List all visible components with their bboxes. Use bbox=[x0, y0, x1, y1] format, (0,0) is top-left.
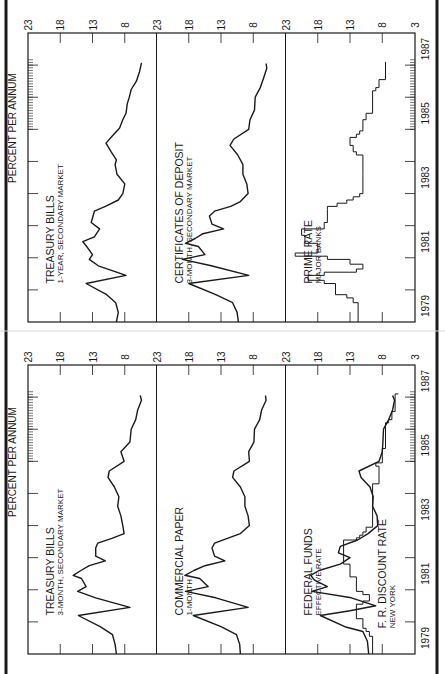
value-tick-label: 8 bbox=[248, 22, 259, 28]
value-tick-label: 23 bbox=[23, 19, 34, 31]
value-tick-label: 8 bbox=[248, 354, 259, 360]
panel-label: CERTIFICATES OF DEPOSIT bbox=[173, 142, 185, 284]
year-label: 1987 bbox=[420, 369, 431, 392]
value-tick-label: 8 bbox=[120, 354, 131, 360]
value-tick-label: 3 bbox=[410, 354, 421, 360]
value-tick-label: 18 bbox=[313, 19, 324, 31]
value-tick-label: 18 bbox=[313, 351, 324, 363]
year-label: 1979 bbox=[420, 294, 431, 317]
value-tick-label: 23 bbox=[152, 19, 163, 31]
unit-label-top: PERCENT PER ANNUM bbox=[7, 73, 18, 183]
value-tick-label: 18 bbox=[184, 19, 195, 31]
year-label: 1985 bbox=[420, 102, 431, 125]
unit-label-bottom: PERCENT PER ANNUM bbox=[7, 407, 18, 517]
panel-label-secondary: F. R. DISCOUNT RATE bbox=[376, 519, 388, 628]
panel-sublabel: 3-MONTH, SECONDARY MARKET bbox=[185, 157, 194, 284]
value-tick-label: 23 bbox=[281, 19, 292, 31]
value-tick-label: 8 bbox=[120, 22, 131, 28]
year-label: 1987 bbox=[420, 37, 431, 60]
value-tick-label: 13 bbox=[216, 19, 227, 31]
value-tick-label: 3 bbox=[410, 22, 421, 28]
panel-sublabel: MAJOR BANKS bbox=[314, 226, 323, 283]
chart-right-page: 2318138231813823181383197919811983198519… bbox=[23, 19, 431, 322]
value-tick-label: 13 bbox=[88, 19, 99, 31]
series-line bbox=[73, 396, 141, 655]
value-tick-label: 18 bbox=[184, 351, 195, 363]
panel-label: TREASURY BILLS bbox=[44, 527, 56, 615]
value-tick-label: 23 bbox=[281, 351, 292, 363]
value-tick-label: 18 bbox=[55, 351, 66, 363]
series-line bbox=[185, 396, 266, 655]
value-tick-label: 23 bbox=[23, 351, 34, 363]
year-label: 1979 bbox=[420, 626, 431, 649]
panel-label: TREASURY BILLS bbox=[44, 195, 56, 283]
rotated-rate-charts: 2318138231813823181383197919811983198519… bbox=[0, 0, 445, 674]
year-label: 1983 bbox=[420, 498, 431, 521]
chart-left-page: 2318138231813823181383197919811983198519… bbox=[23, 351, 431, 654]
value-tick-label: 8 bbox=[377, 354, 388, 360]
year-label: 1983 bbox=[420, 166, 431, 189]
value-tick-label: 18 bbox=[55, 19, 66, 31]
panel-sublabel: EFFECTIVE RATE bbox=[314, 548, 323, 615]
panel-sublabel: 1-YEAR, SECONDARY MARKET bbox=[56, 164, 65, 283]
panel-label: PRIME RATE bbox=[302, 220, 314, 283]
series-line bbox=[182, 64, 266, 323]
value-tick-label: 13 bbox=[345, 351, 356, 363]
panel-sublabel: 1-MONTH bbox=[185, 579, 194, 616]
value-tick-label: 13 bbox=[216, 351, 227, 363]
panel-label: COMMERCIAL PAPER bbox=[173, 507, 185, 616]
value-tick-label: 13 bbox=[88, 351, 99, 363]
panel-label: FEDERAL FUNDS bbox=[302, 528, 314, 615]
chart-canvas: 2318138231813823181383197919811983198519… bbox=[0, 0, 445, 674]
panel-sublabel: 3-MONTH, SECONDARY MARKET bbox=[56, 489, 65, 616]
series-line bbox=[83, 63, 142, 322]
year-label: 1981 bbox=[420, 562, 431, 585]
value-tick-label: 23 bbox=[152, 351, 163, 363]
panel-sublabel-secondary: NEW YORK bbox=[388, 584, 397, 628]
value-tick-label: 8 bbox=[377, 22, 388, 28]
value-tick-label: 13 bbox=[345, 19, 356, 31]
year-label: 1985 bbox=[420, 434, 431, 457]
year-label: 1981 bbox=[420, 230, 431, 253]
